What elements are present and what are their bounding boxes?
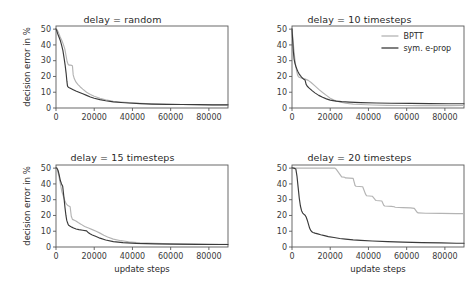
panel-title-0: delay = random <box>8 14 237 25</box>
figure-container: delay = random01020304050020000400006000… <box>0 0 474 301</box>
y-axis-title: decision error in % <box>22 27 32 107</box>
x-tick-label: 60000 <box>394 252 419 261</box>
x-tick-label: 80000 <box>432 113 457 122</box>
series-line-bptt <box>292 168 464 213</box>
x-tick-label: 20000 <box>81 113 106 122</box>
y-tick-label: 20 <box>277 72 287 81</box>
x-tick-label: 80000 <box>196 113 221 122</box>
y-tick-label: 50 <box>41 164 51 173</box>
chart-panel-2: delay = 15 timesteps01020304050020000400… <box>8 152 237 301</box>
x-axis-title: update steps <box>350 264 406 274</box>
y-tick-label: 0 <box>46 243 51 252</box>
legend-label-1: sym. e-prop <box>403 44 451 53</box>
y-tick-label: 10 <box>41 88 51 97</box>
y-tick-label: 40 <box>41 180 51 189</box>
chart-panel-3: delay = 20 timesteps01020304050020000400… <box>245 152 474 301</box>
plot-svg-3: 01020304050020000400006000080000update s… <box>245 152 474 301</box>
x-tick-label: 40000 <box>120 252 145 261</box>
x-tick-label: 20000 <box>317 113 342 122</box>
x-tick-label: 20000 <box>81 252 106 261</box>
x-tick-label: 40000 <box>120 113 145 122</box>
y-tick-label: 40 <box>277 180 287 189</box>
y-tick-label: 0 <box>46 104 51 113</box>
x-tick-label: 0 <box>53 113 58 122</box>
x-axis-title: update steps <box>114 264 170 274</box>
x-tick-label: 60000 <box>158 113 183 122</box>
y-tick-label: 0 <box>282 104 287 113</box>
y-tick-label: 50 <box>277 164 287 173</box>
chart-panel-0: delay = random01020304050020000400006000… <box>8 14 237 150</box>
x-tick-label: 60000 <box>394 113 419 122</box>
y-tick-label: 20 <box>41 211 51 220</box>
axes-frame <box>56 165 228 247</box>
panel-title-1: delay = 10 timesteps <box>245 14 474 25</box>
x-tick-label: 80000 <box>432 252 457 261</box>
chart-panel-1: delay = 10 timesteps01020304050020000400… <box>245 14 474 150</box>
plot-svg-1: 01020304050020000400006000080000BPTTsym.… <box>245 14 474 150</box>
y-tick-label: 50 <box>41 25 51 34</box>
x-tick-label: 80000 <box>196 252 221 261</box>
y-tick-label: 10 <box>277 88 287 97</box>
x-tick-label: 40000 <box>356 113 381 122</box>
y-tick-label: 10 <box>277 227 287 236</box>
series-line-sym-e-prop <box>292 29 464 104</box>
x-tick-label: 0 <box>289 113 294 122</box>
x-tick-label: 0 <box>289 252 294 261</box>
y-tick-label: 30 <box>277 195 287 204</box>
y-tick-label: 30 <box>41 195 51 204</box>
legend-label-0: BPTT <box>403 32 423 41</box>
series-line-bptt <box>56 168 228 244</box>
series-line-sym-e-prop <box>292 168 464 243</box>
series-line-sym-e-prop <box>56 168 228 245</box>
x-tick-label: 40000 <box>356 252 381 261</box>
y-tick-label: 30 <box>277 56 287 65</box>
axes-frame <box>292 26 464 108</box>
y-tick-label: 0 <box>282 243 287 252</box>
series-line-sym-e-prop <box>56 29 228 105</box>
y-axis-title: decision error in % <box>22 166 32 246</box>
y-tick-label: 30 <box>41 56 51 65</box>
y-tick-label: 40 <box>41 41 51 50</box>
plot-svg-2: 01020304050020000400006000080000decision… <box>8 152 237 301</box>
panel-title-2: delay = 15 timesteps <box>8 152 237 163</box>
x-tick-label: 60000 <box>158 252 183 261</box>
axes-frame <box>292 165 464 247</box>
x-tick-label: 20000 <box>317 252 342 261</box>
y-tick-label: 10 <box>41 227 51 236</box>
y-tick-label: 40 <box>277 41 287 50</box>
axes-frame <box>56 26 228 108</box>
plot-svg-0: 01020304050020000400006000080000decision… <box>8 14 237 150</box>
y-tick-label: 20 <box>277 211 287 220</box>
y-tick-label: 50 <box>277 25 287 34</box>
x-tick-label: 0 <box>53 252 58 261</box>
panel-title-3: delay = 20 timesteps <box>245 152 474 163</box>
y-tick-label: 20 <box>41 72 51 81</box>
